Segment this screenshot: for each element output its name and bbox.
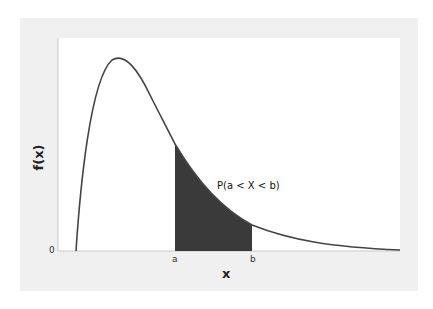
x-axis-title: x	[222, 266, 230, 281]
y-zero-tick: 0	[49, 245, 55, 255]
y-axis-title: f(x)	[31, 145, 46, 171]
probability-annotation: P(a < X < b)	[217, 180, 280, 191]
density-plot	[0, 0, 433, 309]
x-tick-a: a	[172, 254, 178, 264]
x-tick-b: b	[250, 254, 256, 264]
